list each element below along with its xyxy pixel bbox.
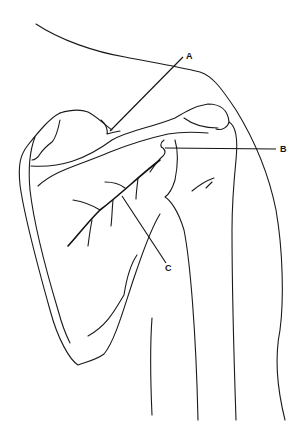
glenoid-line — [151, 318, 153, 415]
scapula-superior-border — [60, 110, 112, 130]
scapula-outline — [19, 113, 160, 365]
nerve-branch-5 — [88, 220, 92, 246]
leader-line-b — [165, 148, 276, 149]
supraspinous-fossa-crack — [32, 120, 60, 160]
nerve-branch-2 — [105, 182, 125, 188]
leader-line-c — [122, 196, 166, 263]
scapula-medial-border — [29, 137, 70, 343]
acromion-inner-curve — [184, 118, 218, 128]
greater-tuberosity-detail-2 — [206, 182, 212, 188]
label-c: C — [165, 264, 172, 273]
nerve-branch-1 — [136, 178, 138, 199]
scapular-spine-lower — [38, 132, 208, 186]
leader-line-a — [110, 57, 183, 131]
glenoid-hook — [150, 140, 165, 172]
humeral-head — [229, 122, 237, 420]
humerus-medial-shaft — [165, 140, 198, 420]
nerve-branch-3 — [111, 200, 113, 226]
ligament-knot — [101, 120, 120, 134]
scapula-lateral-border-inner — [88, 255, 137, 336]
shoulder-diagram: A B C — [0, 0, 303, 433]
diagram-drawing — [0, 0, 303, 433]
nerve-branch-4 — [73, 200, 100, 210]
greater-tuberosity-detail — [192, 178, 214, 191]
label-b: B — [280, 145, 287, 154]
label-a: A — [186, 52, 193, 61]
